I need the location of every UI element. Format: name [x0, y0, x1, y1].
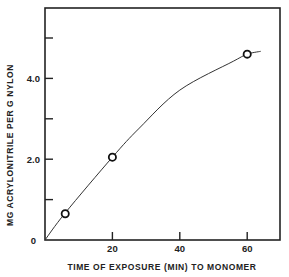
x-tick-label: 20 [107, 243, 118, 254]
data-point-marker [62, 210, 69, 217]
y-tick-label: 2.0 [27, 154, 40, 165]
x-tick-label: 60 [242, 243, 253, 254]
y-ticks: 02.04.0 [27, 38, 53, 246]
x-tick-label: 40 [175, 243, 186, 254]
plot-frame [45, 8, 280, 240]
y-axis-title: MG ACRYLONITRILE PER G NYLON [5, 64, 15, 226]
data-point-marker [244, 51, 251, 58]
y-tick-label: 4.0 [27, 73, 40, 84]
chart: 02.04.0 204060 TIME OF EXPOSURE (MIN) TO… [0, 0, 289, 277]
data-markers [62, 51, 251, 218]
data-point-marker [109, 154, 116, 161]
y-tick-label: 0 [31, 235, 36, 246]
fitted-curve [45, 51, 261, 240]
x-axis-title: TIME OF EXPOSURE (MIN) TO MONOMER [67, 262, 256, 272]
x-ticks: 204060 [107, 232, 252, 254]
